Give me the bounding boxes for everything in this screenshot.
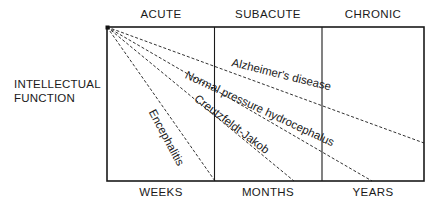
figure-container: INTELLECTUAL FUNCTION ACUTE SUBACUTE CHR…: [0, 0, 440, 213]
time-label-years: YEARS: [353, 186, 394, 198]
origin-marker: [106, 26, 110, 30]
time-label-weeks: WEEKS: [139, 186, 183, 198]
plot-area: [0, 0, 440, 213]
time-label-months: MONTHS: [242, 186, 294, 198]
